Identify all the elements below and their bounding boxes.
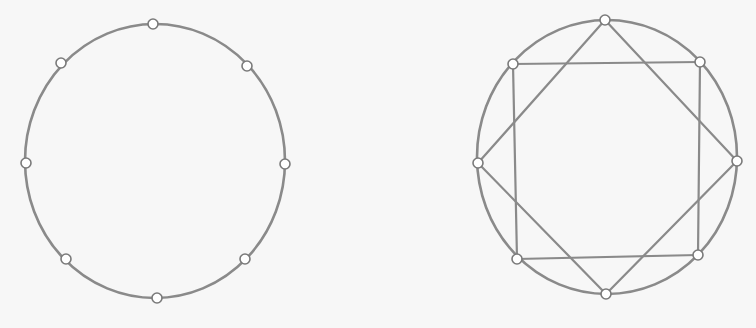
- node-right-bottom-left: [512, 254, 522, 264]
- diagram-canvas: [0, 0, 756, 328]
- node-left-top-left: [56, 58, 66, 68]
- background: [0, 0, 756, 328]
- node-left-bottom-left: [61, 254, 71, 264]
- node-right-bottom: [601, 289, 611, 299]
- node-left-left: [21, 158, 31, 168]
- node-left-bottom-right: [240, 254, 250, 264]
- node-left-right: [280, 159, 290, 169]
- node-right-bottom-right: [693, 250, 703, 260]
- node-right-top-right: [695, 57, 705, 67]
- node-left-top-right: [242, 61, 252, 71]
- node-left-top: [148, 19, 158, 29]
- node-right-top: [600, 15, 610, 25]
- node-left-bottom: [152, 293, 162, 303]
- node-right-top-left: [508, 59, 518, 69]
- node-right-left: [473, 158, 483, 168]
- node-right-right: [732, 156, 742, 166]
